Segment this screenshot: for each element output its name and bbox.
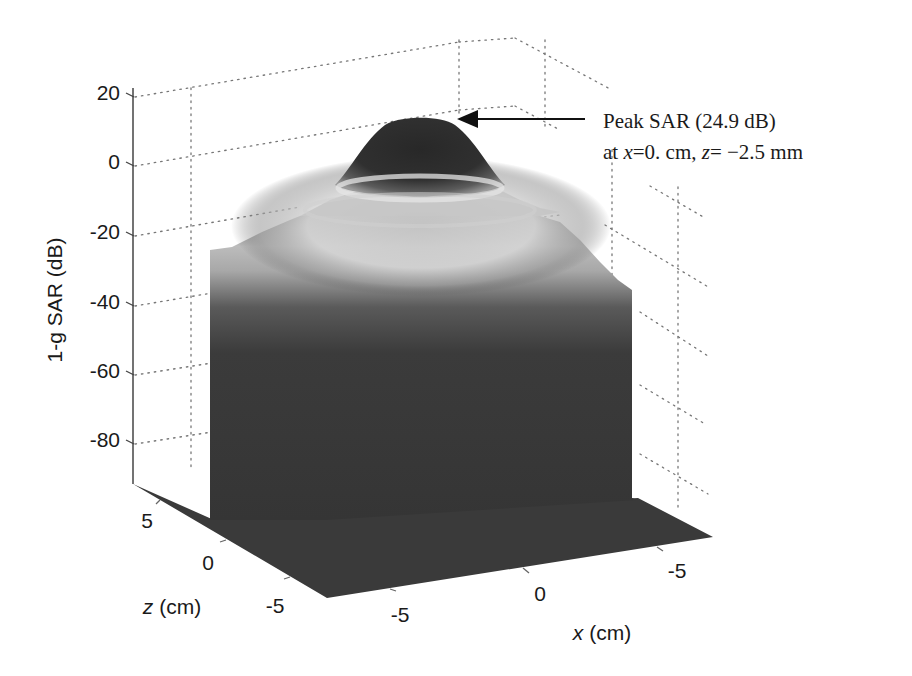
depth-axis-label: z (cm) [142, 595, 201, 618]
x-axis-label: x (cm) [572, 621, 631, 644]
x-tick-m5-left: -5 [391, 603, 410, 626]
x-tick-m5-right: -5 [668, 559, 687, 582]
z-tick-20: 20 [97, 81, 120, 104]
x-tick-0: 0 [534, 582, 546, 605]
z-tick-m60: -60 [90, 359, 120, 382]
z-tick-0: 0 [108, 150, 120, 173]
surface-peak-dome [335, 118, 505, 196]
z-tick-m20: -20 [90, 220, 120, 243]
z-axis-label: 1-g SAR (dB) [43, 238, 66, 363]
z-tick-m80: -80 [90, 428, 120, 451]
depth-tick-m5: -5 [266, 594, 285, 617]
z-tick-m40: -40 [90, 290, 120, 313]
annotation-line-2: at x=0. cm, z= −2.5 mm [603, 140, 803, 164]
sar-3d-surface-plot: 20 0 -20 -40 -60 -80 1-g SAR (dB) 5 0 -5… [0, 0, 912, 676]
depth-tick-0: 0 [202, 551, 214, 574]
depth-tick-5: 5 [141, 509, 153, 532]
annotation-line-1: Peak SAR (24.9 dB) [603, 109, 776, 133]
annotation-arrowhead-icon [457, 110, 478, 128]
